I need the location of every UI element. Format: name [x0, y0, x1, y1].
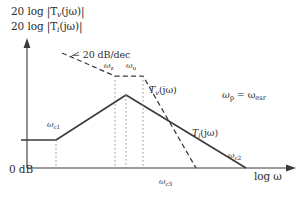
slope-annotation: − 20 dB/dec: [72, 50, 130, 60]
omega-c1-label: ωc1: [47, 121, 60, 130]
zero-db-label: 0 dB: [9, 164, 33, 175]
curve-label-ti: Ti(jω): [192, 128, 218, 140]
curve-label-tv: Tv(jω): [149, 85, 177, 97]
omega-u-label: ωu: [126, 62, 136, 71]
y-axis-label-ti: 20 log |Ti(jω)|: [11, 21, 82, 34]
omega-z-label: ωz: [104, 62, 113, 71]
x-axis-label: log ω: [254, 171, 282, 182]
y-axis-label-tv: 20 log |Tv(jω)|: [11, 6, 84, 19]
omega-p-equation: ωp = ωesr: [222, 90, 266, 102]
omega-c2-label: ωc2: [228, 152, 241, 161]
omega-c3-label: ωc3: [159, 178, 172, 187]
